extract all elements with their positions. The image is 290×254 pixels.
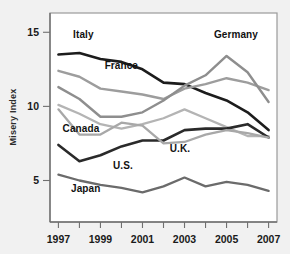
x-tick-label: 1997 [47, 233, 71, 245]
series-label-italy: Italy [73, 29, 94, 40]
x-tick-label: 2001 [131, 233, 155, 245]
series-label-us: U.S. [113, 160, 133, 171]
series-label-uk: U.K. [170, 143, 191, 154]
x-tick-label: 2005 [215, 233, 239, 245]
y-tick-label: 5 [33, 174, 39, 186]
series-label-france: France [105, 60, 139, 71]
misery-index-chart: 51015 199719992001200320052007 Misery In… [0, 0, 290, 254]
y-tick-label: 15 [27, 26, 39, 38]
y-tick-label: 10 [27, 100, 39, 112]
series-label-japan: Japan [71, 183, 100, 194]
series-label-canada: Canada [63, 123, 100, 134]
y-axis-title: Misery Index [8, 89, 18, 146]
x-tick-label: 2003 [173, 233, 197, 245]
series-label-germany: Germany [214, 29, 258, 40]
chart-canvas: 51015 199719992001200320052007 Misery In… [0, 0, 290, 254]
x-tick-label: 2007 [257, 233, 281, 245]
x-tick-label: 1999 [89, 233, 113, 245]
